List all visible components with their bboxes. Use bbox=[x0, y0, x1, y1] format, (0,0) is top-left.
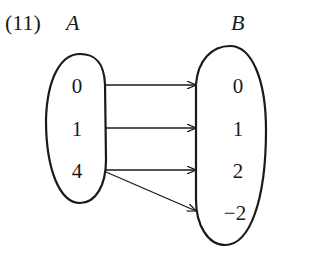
set-b-element: 0 bbox=[233, 76, 244, 97]
set-a-element: 0 bbox=[72, 76, 83, 97]
arrow-4-to-neg2 bbox=[106, 172, 196, 211]
set-a-element: 4 bbox=[72, 161, 83, 182]
set-b-element: 1 bbox=[233, 119, 244, 140]
set-b-element: −2 bbox=[224, 203, 246, 224]
set-a-element: 1 bbox=[72, 119, 83, 140]
set-b-element: 2 bbox=[233, 161, 244, 182]
